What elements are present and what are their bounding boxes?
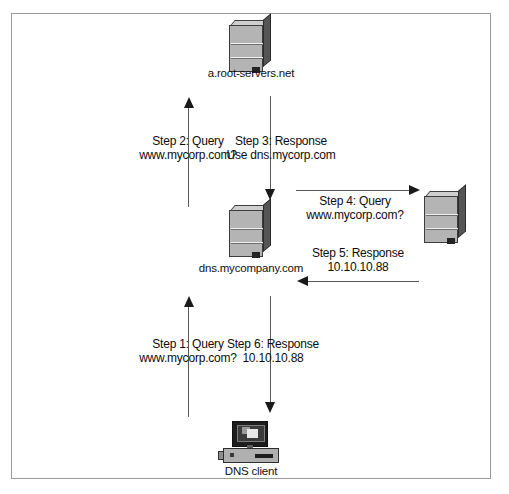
- step4-label: Step 4: Query www.mycorp.com?: [296, 194, 414, 222]
- screen-window-front: [247, 429, 258, 438]
- server-band: [231, 228, 263, 229]
- server-side-face: [458, 184, 466, 238]
- server-band: [231, 242, 263, 243]
- monitor-screen: [237, 425, 265, 442]
- server-band: [426, 228, 458, 229]
- server-icon-dns: [229, 205, 273, 257]
- computer-chassis: [223, 448, 279, 463]
- step5-arrow-line: [308, 281, 419, 282]
- client-label: DNS client: [201, 465, 301, 477]
- step5-arrow-head: [297, 276, 308, 286]
- monitor: [232, 421, 268, 447]
- server-side-face: [263, 198, 271, 252]
- server-band: [231, 43, 263, 44]
- server-band: [426, 214, 458, 215]
- step6-label: Step 6: Response 10.10.10.88: [211, 337, 335, 365]
- step3-label: Step 3: Response Use dns.mycorp.com: [213, 134, 349, 162]
- server-band: [231, 57, 263, 58]
- drive-slot: [255, 454, 273, 458]
- step1-arrow-head: [184, 296, 194, 307]
- server-front-face: [424, 196, 458, 243]
- server-icon-authoritative: [424, 191, 468, 243]
- root-server-label: a.root-servers.net: [176, 67, 326, 79]
- server-led: [252, 252, 260, 258]
- step5-label: Step 5: Response 10.10.10.88: [299, 246, 417, 274]
- server-led: [447, 238, 455, 244]
- desktop-computer-icon-client: [223, 421, 279, 465]
- power-indicator: [230, 453, 234, 457]
- step6-arrow-head: [265, 402, 275, 413]
- server-front-face: [229, 210, 263, 257]
- step3-arrow-head: [265, 189, 275, 200]
- step2-arrow-head: [184, 97, 194, 108]
- server-icon-root: [229, 20, 273, 72]
- diagram-canvas: a.root-servers.net dns.mycompany.com: [0, 0, 509, 494]
- server-side-face: [263, 13, 271, 67]
- server-front-face: [229, 25, 263, 72]
- step4-arrow-line: [296, 190, 415, 191]
